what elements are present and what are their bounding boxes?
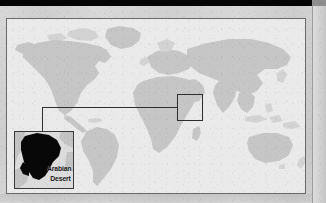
scan-top-black-band [0, 0, 312, 6]
landmass-greenland [105, 26, 141, 49]
callout-line-horizontal [42, 107, 178, 108]
page-edge-shading [313, 6, 326, 203]
landmass-south-america [81, 127, 119, 186]
landmass-europe [147, 49, 193, 75]
landmass-india [213, 81, 237, 113]
scan-bottom-smudge [0, 194, 312, 203]
landmass-new-guinea [283, 121, 301, 129]
landmass-japan [277, 69, 287, 83]
inset-label-line1: Arabian [47, 164, 71, 173]
world-map-frame: Arabian Desert [6, 18, 306, 194]
landmass-north-america [23, 40, 111, 115]
landmass-british-isles [139, 57, 149, 66]
callout-line-vertical [42, 107, 43, 132]
landmass-new-zealand [297, 156, 305, 169]
figure-page: Arabian Desert [0, 0, 326, 203]
landmass-caribbean [88, 118, 103, 123]
highlight-region-box [177, 94, 203, 121]
landmass-tasmania [279, 164, 285, 169]
landmass-australia [247, 133, 293, 163]
landmass-southeast-asia [237, 91, 255, 113]
landmass-arctic-islands [67, 28, 99, 41]
landmass-madagascar [192, 126, 201, 141]
landmass-indonesia-2 [269, 115, 283, 123]
inset-label-line2: Desert [51, 174, 71, 183]
landmass-philippines [265, 103, 273, 113]
landmass-indonesia-1 [245, 115, 267, 123]
inset-detail-map: Arabian Desert [14, 131, 74, 189]
